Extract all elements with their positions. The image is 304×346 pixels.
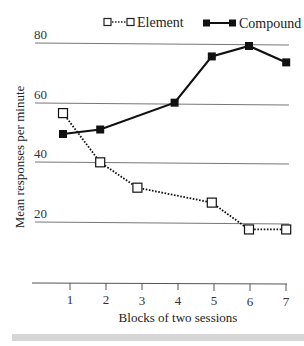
xtick-5: 5: [211, 293, 218, 308]
ytick-40: 40: [34, 146, 47, 161]
gridline-20: [35, 222, 289, 224]
x-axis-label: Blocks of two sessions: [119, 310, 238, 325]
filled-square-marker-icon: [245, 42, 253, 50]
gridline-40: [35, 162, 289, 164]
series-compound: [59, 42, 290, 138]
ytick-20: 20: [34, 206, 47, 221]
xtick-4: 4: [175, 293, 182, 308]
open-square-marker-icon: [282, 225, 291, 234]
legend-compound-label: Compound: [239, 16, 301, 31]
gridline-60: [35, 103, 289, 105]
y-axis-label: Mean responses per minute: [12, 85, 27, 228]
legend-element-label: Element: [137, 15, 184, 30]
open-square-marker-icon: [207, 198, 216, 207]
open-square-marker-icon: [96, 158, 105, 167]
ytick-60: 60: [34, 87, 47, 102]
legend-element-marker-icon: [127, 19, 134, 26]
legend-element-marker-icon: [104, 19, 111, 26]
line-chart: Element Compound 80 60 40 20 Mean respon…: [0, 0, 304, 346]
bottom-gray-strip: [12, 334, 304, 341]
xtick-1: 1: [67, 292, 74, 307]
open-square-marker-icon: [59, 109, 68, 118]
x-axis: 1 2 3 4 5 6 7 Blocks of two sessions: [32, 283, 290, 325]
filled-square-marker-icon: [59, 130, 67, 138]
legend-element: Element: [104, 15, 184, 30]
series-compound-line: [63, 46, 286, 134]
series-element: [59, 109, 291, 234]
ytick-80: 80: [34, 27, 47, 42]
filled-square-marker-icon: [96, 126, 104, 134]
open-square-marker-icon: [133, 183, 142, 192]
legend-compound-marker-icon: [203, 20, 210, 27]
xtick-2: 2: [103, 292, 110, 307]
xtick-6: 6: [247, 294, 254, 309]
series-layer: [59, 42, 291, 234]
legend-compound-marker-icon: [229, 20, 236, 27]
filled-square-marker-icon: [208, 52, 216, 60]
legend-compound: Compound: [203, 16, 301, 31]
filled-square-marker-icon: [171, 99, 179, 107]
open-square-marker-icon: [245, 225, 254, 234]
xtick-3: 3: [139, 293, 146, 308]
xtick-7: 7: [283, 294, 290, 309]
filled-square-marker-icon: [282, 58, 290, 66]
legend: Element Compound: [104, 15, 301, 31]
y-axis-ticks: 80 60 40 20: [34, 27, 47, 221]
